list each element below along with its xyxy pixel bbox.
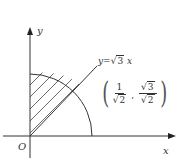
x-numerator: 1	[115, 82, 125, 94]
hatched-region	[20, 53, 100, 143]
line-equation-label: y=√3 x	[98, 57, 132, 66]
x-denominator: √2	[113, 94, 126, 105]
origin-label: O	[18, 142, 26, 152]
y-axis-arrow-icon	[27, 27, 33, 35]
x-coordinate-fraction: 1 √2	[113, 82, 126, 105]
line-y-sqrt3x	[30, 66, 97, 136]
x-axis-label: x	[163, 146, 169, 156]
sector-diagram: y x O y=√3 x ( 1 √2 , √3 √2 )	[0, 0, 183, 166]
left-paren: (	[102, 78, 109, 108]
coordinate-separator: ,	[131, 90, 134, 100]
y-denominator: √2	[141, 94, 154, 105]
y-axis-label: y	[37, 26, 43, 36]
equation-radicand: 3	[116, 55, 124, 66]
equation-variable: x	[127, 56, 132, 66]
y-numerator: √3	[139, 82, 156, 94]
x-axis-arrow-icon	[168, 133, 176, 139]
equation-prefix: y=	[98, 56, 111, 66]
y-coordinate-fraction: √3 √2	[139, 82, 156, 105]
intersection-point-label: ( 1 √2 , √3 √2 )	[100, 78, 169, 108]
right-paren: )	[160, 78, 167, 108]
